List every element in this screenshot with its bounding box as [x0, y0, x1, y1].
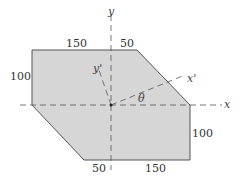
- x-axis-label: x: [224, 98, 231, 111]
- y-prime-label: y': [92, 62, 102, 75]
- dim-top-right: 50: [120, 37, 134, 50]
- y-axis-label: y: [107, 5, 115, 18]
- dim-left: 100: [10, 70, 31, 83]
- dim-right: 100: [192, 127, 213, 140]
- dim-bottom-left: 50: [92, 162, 106, 175]
- centroid-point: [110, 104, 113, 107]
- theta-label: θ: [138, 92, 145, 105]
- diagram-canvas: y x x' y' θ 150 50 100 100 50 150: [0, 0, 242, 181]
- dim-top-left: 150: [66, 37, 87, 50]
- x-prime-label: x': [187, 72, 196, 85]
- dim-bottom-right: 150: [145, 162, 166, 175]
